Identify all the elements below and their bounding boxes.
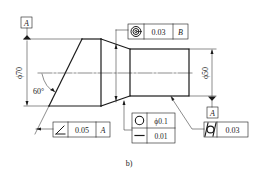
leader-roundness [124, 102, 132, 130]
dimension-phi50: ϕ50 [201, 67, 210, 79]
cylindricity-icon [205, 123, 216, 136]
taper-outline [101, 39, 130, 106]
datum-label-right: A [209, 109, 215, 118]
cylindricity-tolerance: 0.03 [226, 126, 240, 135]
angularity-icon [56, 126, 65, 134]
dimension-phi70: ϕ70 [15, 67, 24, 79]
left-body-outline [49, 39, 101, 106]
roundness-tolerance: ϕ0.1 [154, 117, 168, 126]
technical-drawing: A A ϕ70 ϕ50 60° 0.03 B 0.05 A ϕ0.1 0.01 … [0, 0, 263, 174]
circularity-icon [135, 116, 143, 124]
angularity-datum: A [100, 126, 106, 135]
straightness-tolerance: 0.01 [154, 132, 167, 141]
right-cylinder [130, 49, 189, 96]
datum-triangle-top [23, 35, 31, 40]
datum-label-top: A [23, 19, 29, 28]
arrow-phi70-bottom [26, 101, 29, 106]
angularity-tolerance: 0.05 [75, 126, 89, 135]
angle-60: 60° [33, 87, 44, 96]
leader-cylindricity [171, 97, 204, 129]
concentricity-datum: B [178, 28, 183, 37]
chamfer-extension-line [35, 106, 49, 134]
concentricity-tolerance: 0.03 [152, 28, 166, 37]
datum-triangle-right [208, 97, 216, 102]
figure-caption: b) [126, 159, 133, 168]
